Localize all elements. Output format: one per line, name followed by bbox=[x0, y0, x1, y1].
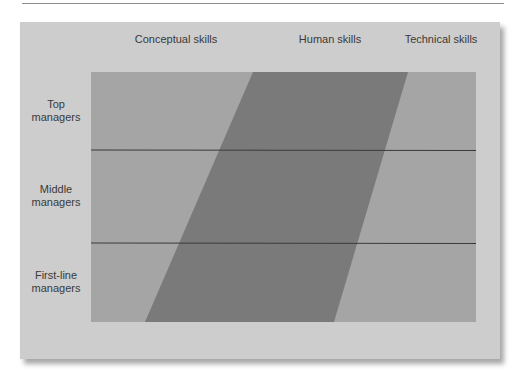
row-label-line: managers bbox=[22, 282, 90, 295]
row-label-first-line-managers: First-line managers bbox=[22, 269, 90, 295]
row-divider-middle-first-line bbox=[91, 243, 476, 244]
row-label-top-managers: Top managers bbox=[22, 98, 90, 124]
top-rule bbox=[22, 3, 504, 4]
row-label-line: managers bbox=[22, 196, 90, 209]
skills-chart-graphic bbox=[91, 72, 476, 322]
row-divider-top-middle bbox=[91, 150, 476, 151]
row-label-line: managers bbox=[22, 111, 90, 124]
column-label-technical: Technical skills bbox=[405, 33, 478, 45]
row-label-line: Middle bbox=[22, 183, 90, 196]
skills-chart bbox=[91, 72, 476, 322]
row-label-middle-managers: Middle managers bbox=[22, 183, 90, 209]
column-label-human: Human skills bbox=[299, 33, 361, 45]
column-label-conceptual: Conceptual skills bbox=[135, 33, 218, 45]
row-label-line: First-line bbox=[22, 269, 90, 282]
row-label-line: Top bbox=[22, 98, 90, 111]
